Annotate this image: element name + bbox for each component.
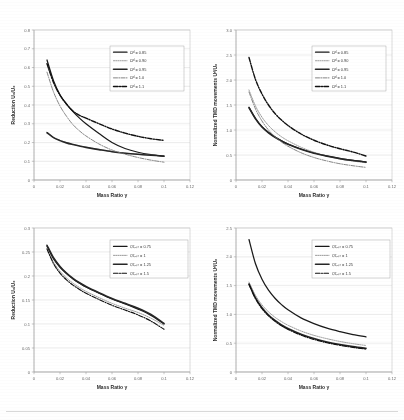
panel-bottom-left: 00.050.10.150.20.250.300.020.040.060.080… (0, 212, 202, 408)
svg-text:Ωᵈ = 0.85: Ωᵈ = 0.85 (332, 50, 348, 55)
svg-text:0.3: 0.3 (24, 226, 30, 231)
svg-text:1.5: 1.5 (226, 103, 232, 108)
svg-text:Mass Ratio γ: Mass Ratio γ (97, 192, 128, 198)
svg-text:0: 0 (235, 376, 238, 381)
svg-text:0: 0 (230, 370, 233, 375)
svg-text:0.05: 0.05 (22, 346, 31, 351)
svg-text:Mass Ratio γ: Mass Ratio γ (299, 192, 330, 198)
svg-text:Mass Ratio γ: Mass Ratio γ (97, 384, 128, 390)
svg-text:2.0: 2.0 (226, 254, 232, 259)
svg-text:0.2: 0.2 (24, 140, 30, 145)
svg-text:Ωᵈ = 0.95: Ωᵈ = 0.95 (332, 67, 348, 72)
svg-text:0.12: 0.12 (186, 376, 195, 381)
svg-text:2.0: 2.0 (226, 78, 232, 83)
svg-text:0.12: 0.12 (388, 376, 397, 381)
svg-text:0: 0 (28, 370, 31, 375)
svg-text:0.5: 0.5 (226, 341, 232, 346)
svg-text:0.12: 0.12 (186, 184, 195, 189)
svg-text:3.0: 3.0 (226, 28, 232, 33)
svg-text:0.02: 0.02 (56, 184, 65, 189)
svg-text:0: 0 (235, 184, 238, 189)
svg-text:1.0: 1.0 (226, 312, 232, 317)
svg-text:Ωᵈ = 1.1: Ωᵈ = 1.1 (332, 84, 346, 89)
svg-text:0.1: 0.1 (363, 184, 369, 189)
svg-text:Normalized TMD movements Uᵈ/U₀: Normalized TMD movements Uᵈ/U₀ (212, 259, 218, 342)
chart-top-left: 00.10.20.30.40.50.60.70.800.020.040.060.… (0, 8, 202, 210)
svg-text:0.02: 0.02 (258, 376, 267, 381)
svg-text:ζ/ζₒₚₜ = 1.5: ζ/ζₒₚₜ = 1.5 (332, 271, 351, 276)
svg-text:0.25: 0.25 (22, 250, 31, 255)
panel-bottom-right: 00.51.01.52.02.500.020.040.060.080.10.12… (202, 212, 404, 408)
svg-text:Ωᵈ = 0.90: Ωᵈ = 0.90 (332, 58, 349, 63)
svg-text:ζ/ζₒₚₜ = 1.5: ζ/ζₒₚₜ = 1.5 (130, 271, 149, 276)
svg-text:ζ/ζₒₚₜ = 0.75: ζ/ζₒₚₜ = 0.75 (130, 244, 151, 249)
svg-text:Normalized TMD movements Uᵈ/U₀: Normalized TMD movements Uᵈ/U₀ (212, 64, 218, 147)
svg-text:2.5: 2.5 (226, 53, 232, 58)
svg-text:0: 0 (33, 376, 36, 381)
svg-text:ζ/ζₒₚₜ = 1: ζ/ζₒₚₜ = 1 (332, 253, 348, 258)
svg-text:ζ/ζₒₚₜ = 1.25: ζ/ζₒₚₜ = 1.25 (332, 262, 353, 267)
svg-text:ζ/ζₒₚₜ = 1.25: ζ/ζₒₚₜ = 1.25 (130, 262, 151, 267)
svg-text:0.02: 0.02 (258, 184, 267, 189)
svg-text:0.1: 0.1 (363, 376, 369, 381)
svg-text:0.6: 0.6 (24, 65, 30, 70)
svg-text:1.0: 1.0 (226, 128, 232, 133)
svg-text:0.04: 0.04 (284, 376, 293, 381)
svg-text:0.5: 0.5 (226, 153, 232, 158)
svg-text:Ωᵈ = 1.1: Ωᵈ = 1.1 (130, 84, 144, 89)
svg-text:ζ/ζₒₚₜ = 1: ζ/ζₒₚₜ = 1 (130, 253, 146, 258)
svg-text:0.1: 0.1 (161, 184, 167, 189)
chart-bottom-right: 00.51.01.52.02.500.020.040.060.080.10.12… (202, 212, 404, 408)
svg-text:0.8: 0.8 (24, 28, 30, 33)
svg-text:0.02: 0.02 (56, 376, 65, 381)
svg-text:0.1: 0.1 (161, 376, 167, 381)
svg-text:0.06: 0.06 (310, 376, 319, 381)
svg-text:2.5: 2.5 (226, 226, 232, 231)
chart-top-right: 00.51.01.52.02.53.000.020.040.060.080.10… (202, 8, 404, 210)
svg-text:0.04: 0.04 (82, 184, 91, 189)
svg-text:0.04: 0.04 (284, 184, 293, 189)
svg-text:Ωᵈ = 0.85: Ωᵈ = 0.85 (130, 50, 146, 55)
svg-text:0.06: 0.06 (108, 376, 117, 381)
svg-text:Ωᵈ = 0.95: Ωᵈ = 0.95 (130, 67, 146, 72)
panel-top-right: 00.51.01.52.02.53.000.020.040.060.080.10… (202, 8, 404, 210)
svg-text:Ωᵈ = 1.0: Ωᵈ = 1.0 (130, 75, 145, 80)
svg-text:0.1: 0.1 (24, 159, 30, 164)
svg-text:Reduction U₀/U₀: Reduction U₀/U₀ (10, 86, 16, 125)
panel-top-left: 00.10.20.30.40.50.60.70.800.020.040.060.… (0, 8, 202, 210)
svg-text:Reduction U₀/U₀: Reduction U₀/U₀ (10, 281, 16, 320)
svg-text:0.5: 0.5 (24, 84, 30, 89)
svg-text:0.06: 0.06 (108, 184, 117, 189)
svg-text:0: 0 (230, 178, 233, 183)
svg-text:0.08: 0.08 (336, 184, 345, 189)
svg-text:0.08: 0.08 (336, 376, 345, 381)
svg-text:Mass Ratio γ: Mass Ratio γ (299, 384, 330, 390)
svg-text:0.08: 0.08 (134, 376, 143, 381)
svg-text:0.1: 0.1 (24, 322, 30, 327)
svg-text:Ωᵈ = 1.0: Ωᵈ = 1.0 (332, 75, 347, 80)
svg-text:0.3: 0.3 (24, 121, 30, 126)
svg-text:1.5: 1.5 (226, 283, 232, 288)
svg-text:0.7: 0.7 (24, 46, 30, 51)
chart-bottom-left: 00.050.10.150.20.250.300.020.040.060.080… (0, 212, 202, 408)
svg-text:Ωᵈ = 0.90: Ωᵈ = 0.90 (130, 58, 147, 63)
svg-text:0: 0 (28, 178, 31, 183)
svg-text:ζ/ζₒₚₜ = 0.75: ζ/ζₒₚₜ = 0.75 (332, 244, 353, 249)
svg-text:0.4: 0.4 (24, 103, 30, 108)
svg-text:0.12: 0.12 (388, 184, 397, 189)
footer-divider (6, 411, 398, 412)
svg-text:0.08: 0.08 (134, 184, 143, 189)
svg-text:0.2: 0.2 (24, 274, 30, 279)
svg-text:0.06: 0.06 (310, 184, 319, 189)
svg-text:0.15: 0.15 (22, 298, 31, 303)
figure-container: 00.10.20.30.40.50.60.70.800.020.040.060.… (0, 0, 404, 420)
svg-text:0: 0 (33, 184, 36, 189)
svg-text:0.04: 0.04 (82, 376, 91, 381)
